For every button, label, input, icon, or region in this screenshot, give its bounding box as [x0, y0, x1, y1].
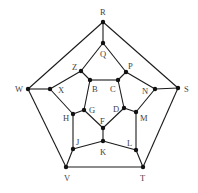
node-label-H: H [63, 113, 69, 123]
node-label-V: V [64, 173, 71, 183]
node-label-F: F [100, 116, 105, 126]
edge-S-N [155, 88, 178, 89]
node-F [101, 126, 105, 130]
node-L [134, 148, 138, 152]
node-label-D: D [113, 104, 119, 114]
node-label-C: C [110, 84, 116, 94]
node-label-B: B [92, 84, 98, 94]
node-label-Z: Z [72, 62, 77, 72]
edge-T-L [136, 150, 143, 167]
node-D [122, 106, 126, 110]
graph-labels: RQZPBCWXNSHGDMFKJLVT [15, 7, 189, 183]
edge-P-Q [103, 43, 126, 72]
node-label-L: L [127, 138, 132, 148]
node-M [134, 110, 138, 114]
node-W [26, 87, 30, 91]
dodecahedron-graph: RQZPBCWXNSHGDMFKJLVT [0, 0, 198, 193]
edge-Z-X [50, 71, 81, 89]
node-R [101, 20, 105, 24]
node-label-N: N [142, 86, 148, 96]
node-label-R: R [100, 7, 106, 17]
node-Q [101, 41, 105, 45]
edge-S-T [143, 88, 178, 167]
node-label-Q: Q [100, 49, 106, 59]
node-X [48, 87, 52, 91]
node-label-M: M [140, 113, 148, 123]
edge-R-S [103, 22, 178, 88]
node-label-K: K [100, 147, 107, 157]
node-label-T: T [140, 173, 146, 183]
node-S [176, 86, 180, 90]
node-label-S: S [184, 84, 189, 94]
node-label-P: P [128, 61, 133, 71]
node-V [64, 165, 68, 169]
node-T [141, 165, 145, 169]
edge-V-J [66, 149, 73, 167]
node-H [71, 112, 75, 116]
node-label-W: W [15, 84, 23, 94]
node-K [101, 139, 105, 143]
node-J [71, 147, 75, 151]
node-Z [79, 69, 83, 73]
node-B [88, 78, 92, 82]
edge-N-P [126, 72, 155, 89]
node-C [116, 78, 120, 82]
node-label-G: G [89, 105, 95, 115]
node-N [153, 87, 157, 91]
node-label-J: J [76, 137, 80, 147]
node-label-X: X [58, 85, 64, 95]
node-G [82, 108, 86, 112]
